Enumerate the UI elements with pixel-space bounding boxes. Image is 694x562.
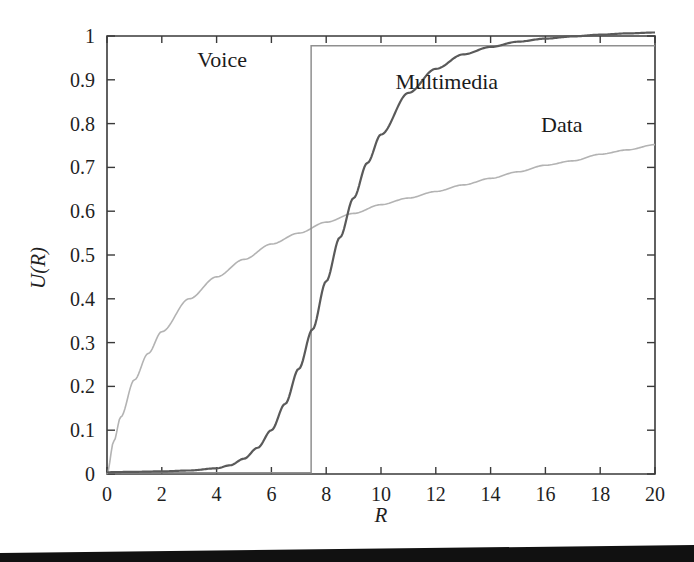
figure-page: 02468101214161820 00.10.20.30.40.50.60.7… — [0, 0, 694, 562]
x-tick-label: 0 — [102, 483, 112, 505]
x-axis-title: R — [374, 503, 388, 527]
series-line-voice — [107, 46, 655, 473]
x-tick-label: 2 — [157, 483, 167, 505]
y-tick-label: 0.5 — [70, 244, 95, 266]
y-axis-tick-labels: 00.10.20.30.40.50.60.70.80.91 — [70, 25, 95, 485]
y-tick-label: 0.8 — [70, 113, 95, 135]
y-tick-label: 0.9 — [70, 69, 95, 91]
y-tick-label: 0.4 — [70, 288, 95, 310]
x-tick-label: 16 — [535, 483, 555, 505]
series-line-multimedia — [107, 33, 655, 473]
x-tick-label: 6 — [266, 483, 276, 505]
x-axis-ticks — [107, 36, 655, 474]
x-tick-label: 4 — [212, 483, 222, 505]
x-tick-label: 12 — [426, 483, 446, 505]
series-line-data — [107, 145, 655, 474]
x-tick-label: 18 — [590, 483, 610, 505]
y-tick-label: 0.6 — [70, 200, 95, 222]
chart-svg: 02468101214161820 00.10.20.30.40.50.60.7… — [0, 0, 694, 540]
y-tick-label: 0.2 — [70, 375, 95, 397]
curve-label-multimedia: Multimedia — [395, 69, 498, 94]
chart-figure: 02468101214161820 00.10.20.30.40.50.60.7… — [0, 0, 694, 540]
y-tick-label: 1 — [85, 25, 95, 47]
x-axis-tick-labels: 02468101214161820 — [102, 483, 665, 505]
x-tick-label: 8 — [321, 483, 331, 505]
y-tick-label: 0.3 — [70, 332, 95, 354]
y-tick-label: 0.7 — [70, 156, 95, 178]
x-tick-label: 14 — [481, 483, 501, 505]
y-tick-label: 0.1 — [70, 419, 95, 441]
scan-edge-svg — [0, 540, 694, 562]
curve-label-voice: Voice — [197, 47, 247, 72]
scan-edge-bar — [0, 540, 694, 562]
y-axis-title: U(R) — [26, 247, 50, 289]
x-tick-label: 10 — [371, 483, 391, 505]
y-tick-label: 0 — [85, 463, 95, 485]
scan-edge-shape — [0, 545, 694, 562]
y-axis-ticks — [107, 36, 655, 474]
curve-label-data: Data — [541, 112, 583, 137]
x-tick-label: 20 — [645, 483, 665, 505]
axis-frame — [107, 36, 655, 474]
